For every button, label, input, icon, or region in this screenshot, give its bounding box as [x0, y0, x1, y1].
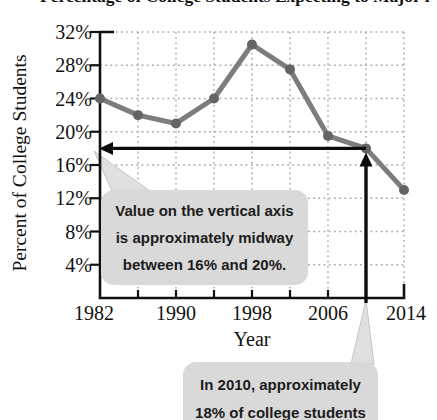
y-tick-8: 8%: [30, 221, 92, 243]
data-point: [133, 110, 143, 120]
callout-line: is approximately midway: [101, 224, 308, 251]
line-graph-figure: Percentage of College Students Expecting…: [0, 0, 437, 420]
x-tick-1982: 1982: [62, 302, 126, 324]
x-tick-1998: 1998: [220, 302, 284, 324]
callout-2010-note: In 2010, approximately 18% of college st…: [183, 362, 378, 420]
data-point: [171, 118, 181, 128]
data-point: [95, 94, 105, 104]
x-tick-1990: 1990: [144, 302, 208, 324]
data-point: [209, 94, 219, 104]
y-tick-24: 24%: [30, 88, 92, 110]
data-point: [247, 39, 257, 49]
y-axis-title: Percent of College Students: [9, 22, 33, 304]
x-axis-title: Year: [222, 328, 282, 351]
data-point: [285, 64, 295, 74]
x-tick-2006: 2006: [296, 302, 360, 324]
callout-line: between 16% and 20%.: [101, 251, 308, 278]
data-point: [323, 131, 333, 141]
clipped-chart-title: Percentage of College Students Expecting…: [40, 0, 430, 8]
callout-vertical-axis-note: Value on the vertical axis is approximat…: [101, 190, 308, 285]
x-tick-2014: 2014: [374, 302, 437, 324]
data-point: [399, 185, 409, 195]
callout-line: Value on the vertical axis: [101, 197, 308, 224]
callout-line: In 2010, approximately: [183, 371, 378, 399]
y-tick-16: 16%: [30, 154, 92, 176]
callout-tail-left: [94, 151, 150, 191]
y-tick-12: 12%: [30, 187, 92, 209]
y-tick-4: 4%: [30, 254, 92, 276]
y-tick-32: 32%: [30, 21, 92, 43]
y-tick-20: 20%: [30, 121, 92, 143]
callout-line: 18% of college students: [183, 399, 378, 420]
y-tick-28: 28%: [30, 54, 92, 76]
